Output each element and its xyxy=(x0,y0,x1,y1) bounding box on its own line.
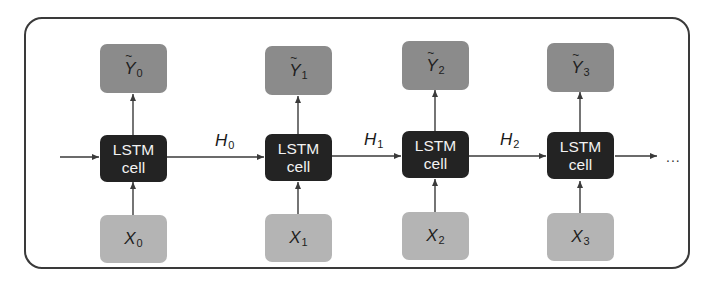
output-box-3: ~Y3 xyxy=(547,43,614,92)
hidden-state-label-1: H1 xyxy=(364,130,383,150)
output-box-2: ~Y2 xyxy=(402,41,469,90)
lstm-cell-2: LSTM cell xyxy=(402,131,469,178)
cell-label-line1: LSTM xyxy=(113,141,154,159)
cell-label-line1: LSTM xyxy=(415,137,456,155)
output-symbol-2: ~Y2 xyxy=(426,56,444,76)
input-symbol-2: X2 xyxy=(426,226,444,246)
input-box-2: X2 xyxy=(402,212,469,260)
input-box-3: X3 xyxy=(547,213,614,261)
hidden-state-label-2: H2 xyxy=(500,130,519,150)
input-symbol-0: X0 xyxy=(124,229,142,249)
lstm-cell-3: LSTM cell xyxy=(547,132,614,179)
cell-label-line2: cell xyxy=(569,156,592,174)
input-box-1: X1 xyxy=(265,214,332,262)
cell-label-line1: LSTM xyxy=(278,140,319,158)
input-box-0: X0 xyxy=(100,215,167,263)
input-symbol-3: X3 xyxy=(571,227,589,247)
continuation-ellipsis: ... xyxy=(666,149,681,165)
cell-label-line2: cell xyxy=(122,159,145,177)
output-box-0: ~Y0 xyxy=(100,44,167,93)
lstm-cell-1: LSTM cell xyxy=(265,134,332,181)
hidden-state-label-0: H0 xyxy=(215,131,234,151)
lstm-cell-0: LSTM cell xyxy=(100,135,167,182)
input-symbol-1: X1 xyxy=(289,228,307,248)
output-symbol-0: ~Y0 xyxy=(124,59,142,79)
output-symbol-3: ~Y3 xyxy=(571,58,589,78)
output-box-1: ~Y1 xyxy=(265,46,332,95)
output-symbol-1: ~Y1 xyxy=(289,61,307,81)
cell-label-line2: cell xyxy=(424,155,447,173)
cell-label-line1: LSTM xyxy=(560,138,601,156)
cell-label-line2: cell xyxy=(287,158,310,176)
